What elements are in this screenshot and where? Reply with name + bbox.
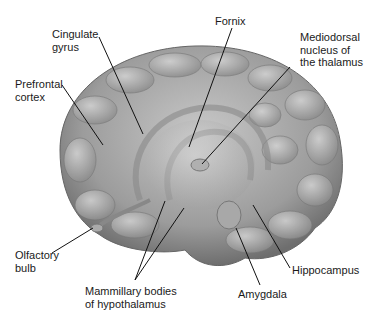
label-mediodorsal-nucleus: Mediodorsal nucleus of the thalamus — [300, 31, 363, 69]
label-olfactory-bulb: Olfactory bulb — [15, 249, 59, 274]
label-hippocampus: Hippocampus — [292, 264, 359, 277]
label-mammillary-bodies: Mammillary bodies of hypothalamus — [85, 285, 177, 310]
label-cingulate-gyrus: Cingulate gyrus — [52, 28, 98, 53]
label-amygdala: Amygdala — [238, 288, 287, 301]
brain-diagram: Cingulate gyrus Prefrontal cortex Fornix… — [0, 0, 373, 317]
label-fornix: Fornix — [215, 15, 246, 28]
label-prefrontal-cortex: Prefrontal cortex — [15, 78, 63, 103]
